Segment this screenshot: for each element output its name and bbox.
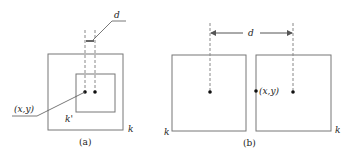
point-dot <box>254 89 258 93</box>
center-dot <box>93 90 97 94</box>
right-box-label: k <box>335 125 340 135</box>
right-center-dot <box>291 90 295 94</box>
panel-a: d (x,y) k' k (a) <box>12 10 133 147</box>
d-leader-line <box>93 21 126 40</box>
diagram: d (x,y) k' k (a) d (x,y) k k (b) <box>0 0 348 157</box>
panel-b: d (x,y) k k (b) <box>164 23 340 148</box>
d-label: d <box>248 28 254 38</box>
inner-box-label: k' <box>65 114 73 124</box>
caption-a: (a) <box>79 137 91 147</box>
d-label: d <box>114 10 120 20</box>
point-label: (x,y) <box>14 104 35 114</box>
left-box-label: k <box>164 127 169 137</box>
outer-box-label: k <box>128 124 133 134</box>
left-center-dot <box>208 90 212 94</box>
point-label: (x,y) <box>259 86 280 96</box>
caption-b: (b) <box>243 138 256 148</box>
